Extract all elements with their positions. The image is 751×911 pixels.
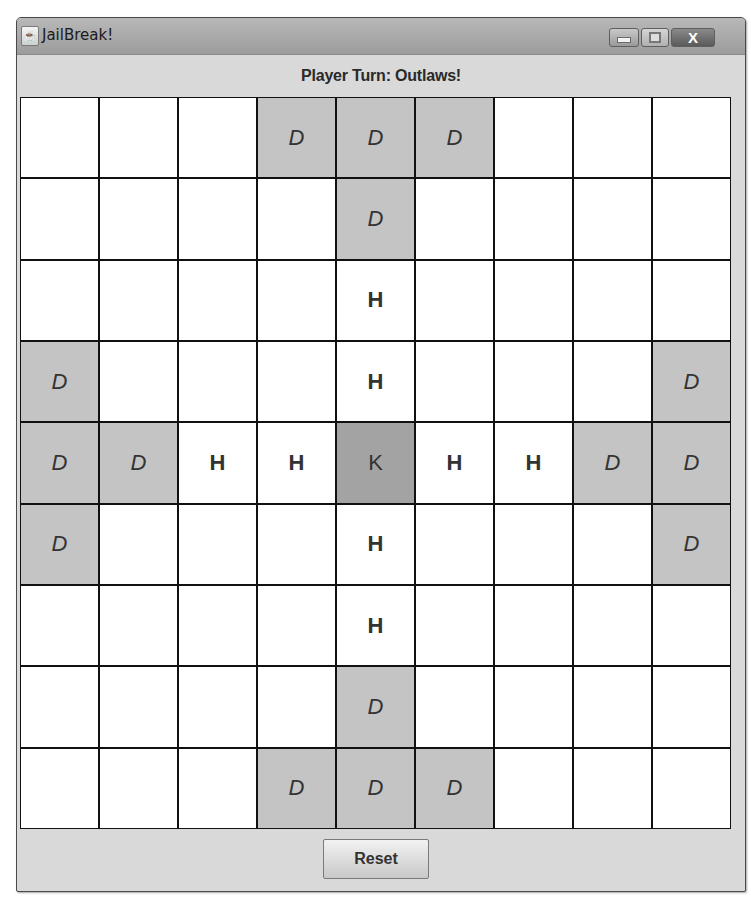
board-cell-empty[interactable] [416,342,493,421]
java-cup-icon: ☕ [21,26,39,46]
board-cell-defender[interactable]: D [21,505,98,584]
board-cell-king[interactable]: K [337,423,414,502]
board-cell-empty[interactable] [653,261,730,340]
board-cell-defender[interactable]: D [21,423,98,502]
board-cell-empty[interactable] [653,667,730,746]
board-cell-defender[interactable]: D [258,749,335,828]
board-cell-empty[interactable] [653,586,730,665]
board-cell-empty[interactable] [495,667,572,746]
board-cell-empty[interactable] [179,586,256,665]
board-cell-empty[interactable] [495,342,572,421]
board-cell-hostage[interactable]: H [416,423,493,502]
maximize-button[interactable] [641,28,669,47]
maximize-icon [649,32,661,43]
board-cell-empty[interactable] [100,98,177,177]
board-cell-hostage[interactable]: H [179,423,256,502]
window-title: JailBreak! [42,26,113,44]
minimize-icon [617,37,631,43]
board-cell-hostage[interactable]: H [337,505,414,584]
board-cell-defender[interactable]: D [21,342,98,421]
board-cell-defender[interactable]: D [416,98,493,177]
board-cell-empty[interactable] [574,586,651,665]
board-cell-empty[interactable] [100,667,177,746]
board-cell-empty[interactable] [495,261,572,340]
game-board: DDDDHDHDDDHHKHHDDDHDHDDDD [20,97,731,829]
board-cell-defender[interactable]: D [416,749,493,828]
footer-panel: Reset [17,829,745,891]
minimize-button[interactable] [609,28,639,47]
title-bar[interactable]: ☕ JailBreak! X [17,18,745,55]
board-cell-empty[interactable] [179,179,256,258]
board-cell-defender[interactable]: D [653,342,730,421]
board-cell-empty[interactable] [416,179,493,258]
board-cell-hostage[interactable]: H [337,261,414,340]
board-cell-empty[interactable] [574,667,651,746]
board-cell-empty[interactable] [258,505,335,584]
board-cell-empty[interactable] [574,505,651,584]
board-cell-defender[interactable]: D [337,749,414,828]
board-cell-hostage[interactable]: H [337,586,414,665]
board-cell-empty[interactable] [574,261,651,340]
board-cell-empty[interactable] [100,749,177,828]
board-cell-empty[interactable] [258,586,335,665]
board-cell-empty[interactable] [653,179,730,258]
board-cell-empty[interactable] [21,667,98,746]
board-cell-defender[interactable]: D [258,98,335,177]
board-cell-defender[interactable]: D [337,179,414,258]
board-cell-empty[interactable] [100,505,177,584]
board-cell-defender[interactable]: D [100,423,177,502]
board-cell-defender[interactable]: D [653,505,730,584]
board-cell-empty[interactable] [574,179,651,258]
board-cell-empty[interactable] [416,667,493,746]
board-cell-empty[interactable] [495,505,572,584]
board-cell-empty[interactable] [258,179,335,258]
board-cell-empty[interactable] [21,749,98,828]
board-cell-empty[interactable] [21,179,98,258]
board-cell-hostage[interactable]: H [495,423,572,502]
board-cell-defender[interactable]: D [337,667,414,746]
app-window: ☕ JailBreak! X Player Turn: Outlaws! DDD… [16,17,746,892]
board-cell-defender[interactable]: D [337,98,414,177]
board-cell-empty[interactable] [574,749,651,828]
board-cell-defender[interactable]: D [653,423,730,502]
board-cell-empty[interactable] [179,261,256,340]
board-cell-empty[interactable] [258,667,335,746]
reset-button[interactable]: Reset [323,839,429,879]
close-button[interactable]: X [671,28,715,47]
board-cell-empty[interactable] [21,98,98,177]
player-turn-status: Player Turn: Outlaws! [17,55,745,97]
board-cell-empty[interactable] [574,98,651,177]
board-cell-empty[interactable] [179,749,256,828]
board-cell-empty[interactable] [21,261,98,340]
board-cell-empty[interactable] [179,98,256,177]
board-cell-empty[interactable] [179,667,256,746]
board-cell-empty[interactable] [258,261,335,340]
board-cell-empty[interactable] [495,179,572,258]
board-cell-defender[interactable]: D [574,423,651,502]
board-cell-empty[interactable] [100,179,177,258]
board-cell-hostage[interactable]: H [337,342,414,421]
board-cell-empty[interactable] [653,98,730,177]
board-cell-empty[interactable] [258,342,335,421]
board-cell-empty[interactable] [495,98,572,177]
board-cell-empty[interactable] [179,505,256,584]
board-cell-empty[interactable] [179,342,256,421]
board-cell-hostage[interactable]: H [258,423,335,502]
board-cell-empty[interactable] [21,586,98,665]
board-cell-empty[interactable] [495,749,572,828]
board-cell-empty[interactable] [416,261,493,340]
board-cell-empty[interactable] [416,505,493,584]
board-cell-empty[interactable] [100,586,177,665]
board-cell-empty[interactable] [495,586,572,665]
board-cell-empty[interactable] [416,586,493,665]
board-cell-empty[interactable] [574,342,651,421]
close-icon: X [688,29,698,46]
board-cell-empty[interactable] [653,749,730,828]
board-cell-empty[interactable] [100,261,177,340]
board-cell-empty[interactable] [100,342,177,421]
